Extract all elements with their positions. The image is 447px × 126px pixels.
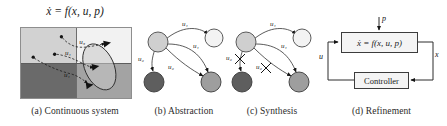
plant-block-label: ẋ = f(x, u, p) [357, 38, 402, 48]
node-top-left [236, 32, 256, 52]
panel-b-label-u1-right: u₁ [193, 42, 199, 50]
panel-b-label-u2-left: u₂ [138, 55, 144, 63]
node-bottom-left [232, 72, 252, 92]
panel-a-label-u1-mid: u₁ [65, 49, 71, 57]
panel-synthesis: u₁ u₁ u₂ u₂ (c) Synthesis [226, 0, 318, 126]
panel-continuous-system: ẋ = f(x, u, p) [0, 0, 150, 126]
panel-b-label-u1-top: u₁ [182, 20, 188, 28]
signal-label-u: u [319, 52, 323, 61]
edge-tr-to-br [166, 48, 203, 76]
edge-tl-to-br [168, 44, 208, 72]
node-top-right [293, 29, 311, 47]
edge-tl-to-tr [254, 29, 296, 39]
state-space-partition: u₃ u₁ u₁ [20, 27, 132, 99]
sample-point [53, 53, 56, 56]
edge-tl-to-br [256, 44, 296, 72]
signal-label-p: p [382, 14, 386, 23]
plant-block[interactable]: ẋ = f(x, u, p) [341, 32, 418, 53]
caption-panel-c: (c) Synthesis [226, 106, 318, 116]
signal-label-x: x [435, 50, 439, 59]
invariant-set-ellipse [76, 39, 122, 95]
caption-panel-d: (d) Refinement [316, 106, 447, 116]
panel-abstraction: u₁ u₁ u₂ u₂ (b) Abstraction [138, 0, 230, 126]
removed-edge-mark-mid [261, 63, 271, 73]
abstraction-graph: u₁ u₁ u₂ u₂ [138, 18, 230, 102]
flow-arrow [86, 82, 94, 89]
node-bottom-left [144, 72, 164, 92]
node-bottom-right [201, 72, 221, 92]
panel-c-label-u1-right: u₁ [281, 42, 287, 50]
feedback-block-diagram: ẋ = f(x, u, p) Controller p x u [316, 14, 447, 102]
figure-root: ẋ = f(x, u, p) [0, 0, 447, 126]
continuous-system-equation: ẋ = f(x, u, p) [0, 5, 150, 17]
node-top-left [148, 32, 168, 52]
panel-a-label-u1-low: u₁ [64, 71, 70, 79]
node-top-right [205, 29, 223, 47]
edge-tl-to-tr [166, 29, 208, 39]
controller-block-label: Controller [364, 76, 399, 86]
caption-panel-b: (b) Abstraction [138, 106, 230, 116]
panel-refinement: ẋ = f(x, u, p) Controller p x u (d) Refi… [316, 0, 447, 126]
controller-block[interactable]: Controller [354, 72, 409, 89]
flow-arrow [103, 41, 111, 48]
synthesis-graph: u₁ u₁ u₂ u₂ [226, 18, 318, 102]
panel-c-label-u1-top: u₁ [270, 20, 276, 28]
node-bottom-right [289, 72, 309, 92]
panel-b-label-u2-mid: u₂ [168, 63, 174, 71]
panel-c-label-u2-mid: u₂ [256, 63, 262, 71]
edge-tl-to-bl [152, 49, 155, 71]
edge-tr-to-br [254, 48, 291, 76]
trajectory-lower [34, 58, 87, 83]
panel-a-label-u3: u₃ [79, 38, 85, 46]
panel-c-label-u2-left: u₂ [226, 54, 232, 62]
caption-panel-a: (a) Continuous system [0, 106, 150, 116]
trajectories-overlay [21, 28, 131, 98]
